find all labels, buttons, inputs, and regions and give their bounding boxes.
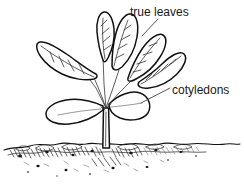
cotyledon-right — [109, 92, 150, 120]
ground-group — [4, 143, 240, 177]
true-leaves-group — [37, 12, 186, 108]
cotyledon-left — [46, 99, 103, 124]
label-cotyledons: cotyledons — [172, 83, 229, 97]
true-leaf-upper-left — [97, 12, 114, 62]
true-leaf-center — [112, 14, 138, 70]
label-true-leaves: true leaves — [130, 5, 189, 19]
true-leaves-leader-line — [142, 19, 158, 36]
cotyledons-group — [46, 92, 150, 124]
soil-hatching-center — [92, 147, 142, 166]
soil-hatching-right — [144, 147, 199, 155]
plant-stem — [103, 108, 110, 148]
soil-hatching-left — [10, 147, 89, 158]
seedling-diagram: true leaves cotyledons — [0, 0, 244, 186]
seedling-illustration: true leaves cotyledons — [0, 0, 244, 186]
